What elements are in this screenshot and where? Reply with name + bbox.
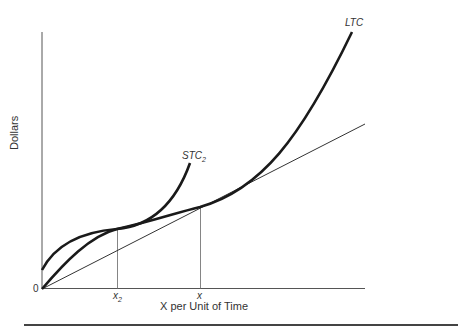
cost-curves-chart — [0, 0, 458, 336]
stc2-label-sub: 2 — [202, 156, 206, 163]
stc2-label: STC2 — [182, 150, 206, 163]
bottom-rule — [24, 324, 458, 326]
y-axis-label: Dollars — [8, 116, 20, 150]
x-axis-label: X per Unit of Time — [160, 300, 248, 312]
x2-tick-label: x2 — [113, 290, 122, 303]
stc2-label-main: STC — [182, 150, 202, 161]
x2-tick-sub: 2 — [118, 296, 122, 303]
origin-label: 0 — [33, 283, 39, 294]
ltc-label: LTC — [345, 17, 363, 28]
